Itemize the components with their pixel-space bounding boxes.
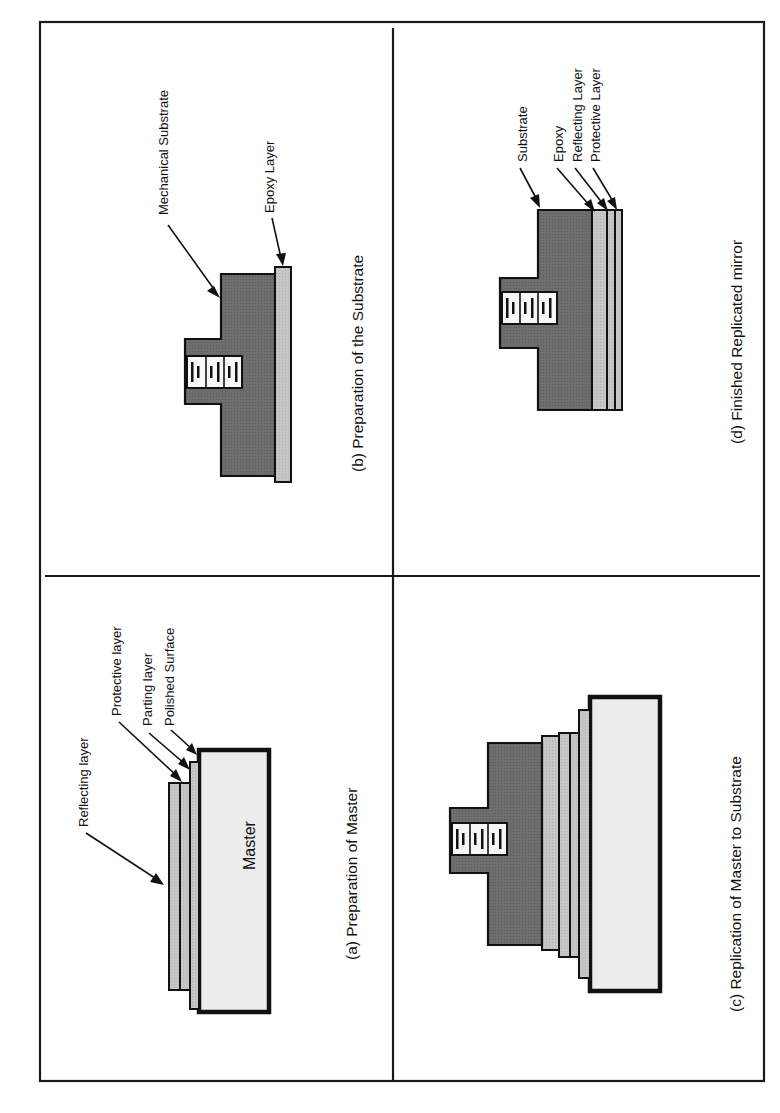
label-mechanical-substrate: Mechanical Substrate (156, 90, 171, 215)
label-reflecting-layer: Reflecting layer (76, 737, 91, 827)
polished-layer (579, 710, 590, 978)
label-protective-layer: Protective layer (109, 626, 124, 716)
polished-surface-layer (190, 762, 199, 1009)
caption-c: (c) Replication of Master to Substrate (727, 756, 744, 1012)
epoxy-shape (592, 210, 607, 410)
label-epoxy-layer: Epoxy Layer (262, 140, 277, 213)
parting-layer (570, 733, 579, 957)
parting-layer (180, 783, 190, 990)
master-block (199, 750, 269, 1012)
arrow-reflecting-layer (86, 833, 158, 880)
epoxy-layer-shape (275, 267, 291, 482)
caption-a: (a) Preparation of Master (343, 788, 360, 960)
label-substrate: Substrate (515, 106, 530, 162)
protective-layer (169, 783, 180, 990)
arrowhead (530, 194, 540, 208)
arrow-epoxy-layer (272, 218, 281, 258)
reflecting-layer-shape (607, 210, 615, 410)
caption-d: (d) Finished Replicated mirror (728, 240, 745, 444)
label-protective-layer: Protective Layer (588, 67, 603, 162)
master-block (590, 697, 660, 991)
arrowhead (207, 286, 220, 298)
replicated-mirror-diagram: Mechanical Substrate Epoxy Layer (b) Pre… (0, 0, 780, 1113)
epoxy-layer (542, 736, 559, 950)
actuator-block (452, 823, 507, 855)
protective-layer-shape (615, 210, 622, 410)
arrow-substrate (520, 168, 537, 200)
actuator-block (187, 356, 242, 388)
panel-d-finished-mirror: Substrate Epoxy Reflecting Layer Protect… (500, 67, 745, 444)
arrow-reflecting-layer (575, 168, 603, 204)
panel-c-replication: (c) Replication of Master to Substrate (450, 697, 744, 1012)
arrow-mechanical-substrate (168, 225, 216, 292)
arrowhead (607, 197, 617, 210)
actuator-block (502, 292, 557, 324)
caption-b: (b) Preparation of the Substrate (349, 255, 366, 472)
panel-a-master-preparation: Master Reflecting layer Protective layer… (76, 626, 360, 1012)
label-parting-layer: Parting layer (140, 652, 155, 726)
arrowhead (150, 873, 164, 885)
label-polished-surface: Polished Surface (162, 628, 177, 726)
arrow-protective-layer (593, 168, 614, 203)
arrow-epoxy (557, 168, 590, 206)
panel-b-substrate-preparation: Mechanical Substrate Epoxy Layer (b) Pre… (156, 90, 366, 482)
label-reflecting-layer: Reflecting Layer (570, 67, 585, 162)
arrowhead (276, 253, 286, 266)
label-epoxy: Epoxy (551, 125, 566, 162)
protective-layer (559, 733, 570, 957)
master-label: Master (241, 820, 258, 870)
